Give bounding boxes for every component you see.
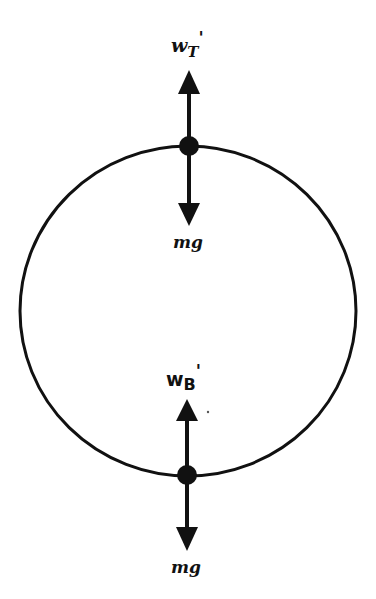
svg-text:wB': wB' — [166, 361, 201, 394]
top-point-dot — [179, 136, 199, 156]
bottom-point-group: wB' mg — [166, 361, 201, 577]
bottom-down-arrowhead-icon — [176, 527, 198, 551]
bottom-force-label: w — [166, 368, 184, 390]
scan-speck — [207, 411, 209, 413]
top-point-group: wT' mg — [171, 27, 204, 252]
bottom-force-subscript: B — [184, 375, 196, 394]
top-force-label: w — [171, 34, 188, 56]
bottom-weight-label: mg — [171, 557, 201, 577]
top-weight-label: mg — [173, 232, 203, 252]
top-down-arrowhead-icon — [178, 203, 200, 226]
top-force-prime: ' — [199, 27, 204, 47]
top-up-arrowhead-icon — [178, 70, 200, 94]
svg-text:wT': wT' — [171, 27, 204, 61]
bottom-force-prime: ' — [196, 361, 201, 381]
bottom-up-arrowhead-icon — [176, 399, 198, 421]
free-body-diagram: wT' mg wB' mg — [0, 0, 376, 599]
bottom-point-dot — [177, 465, 197, 485]
